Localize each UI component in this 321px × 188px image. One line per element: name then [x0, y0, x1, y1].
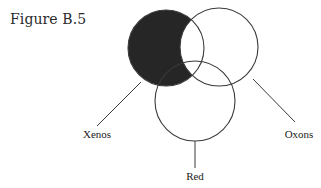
leader-line-oxons [253, 79, 295, 122]
label-oxons: Oxons [285, 128, 314, 140]
label-red: Red [186, 170, 204, 182]
label-xenos: Xenos [83, 128, 111, 140]
leader-line-xenos [97, 82, 141, 126]
circle-oxons [180, 8, 258, 86]
venn-diagram: Xenos Oxons Red [0, 0, 321, 188]
